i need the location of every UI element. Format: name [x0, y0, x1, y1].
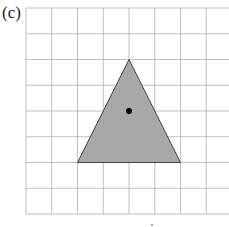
grid-figure: [0, 0, 229, 227]
stray-mark: [151, 224, 153, 226]
center-dot: [126, 108, 132, 114]
